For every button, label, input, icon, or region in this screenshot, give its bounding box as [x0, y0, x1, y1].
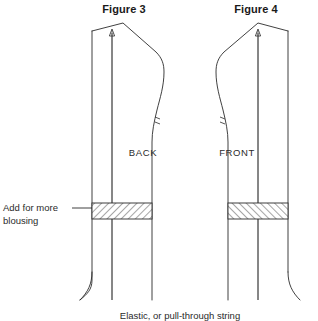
- blousing-band-front: [228, 203, 288, 219]
- piece-label-front: FRONT: [219, 147, 255, 158]
- callout-line-2: blousing: [3, 215, 38, 226]
- bottom-caption: Elastic, or pull-through string: [120, 310, 240, 321]
- sewing-pattern-diagram: Figure 3 Figure 4 BACK FRONT Add for mor…: [0, 0, 318, 321]
- page-background: [0, 0, 318, 321]
- figure-title-left: Figure 3: [102, 3, 146, 15]
- piece-label-back: BACK: [129, 147, 157, 158]
- callout-line-1: Add for more: [3, 202, 58, 213]
- figure-title-right: Figure 4: [234, 3, 278, 15]
- diagram-canvas: Figure 3 Figure 4 BACK FRONT Add for mor…: [0, 0, 318, 321]
- blousing-band-back: [92, 203, 152, 219]
